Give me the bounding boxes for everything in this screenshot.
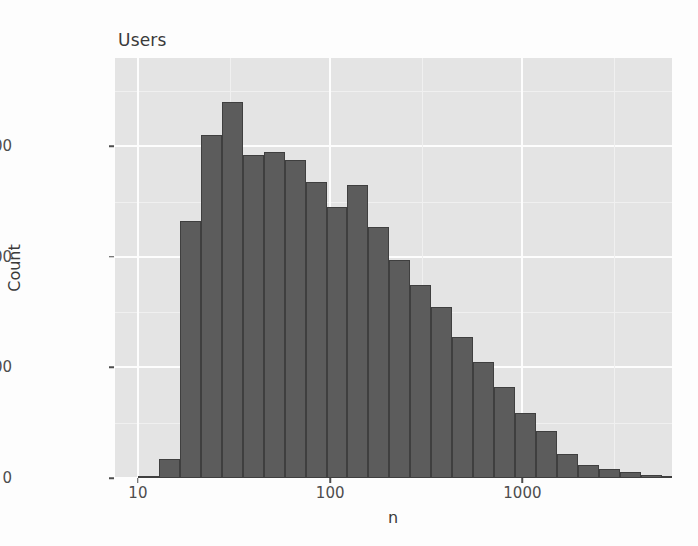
- histogram-bar: [264, 152, 285, 478]
- histogram-bar: [578, 465, 599, 478]
- y-tick-label: 0: [2, 469, 12, 487]
- histogram-bar: [494, 387, 515, 478]
- histogram-bar: [620, 472, 641, 478]
- x-tick-mark: [522, 478, 524, 483]
- y-axis-label: Count: [5, 244, 24, 292]
- histogram-bar: [347, 185, 368, 478]
- histogram-bar: [201, 135, 222, 478]
- histogram-bars: [115, 58, 672, 478]
- histogram-bar: [285, 160, 306, 478]
- histogram-bar: [599, 469, 620, 478]
- x-tick-label: 1000: [503, 484, 541, 502]
- histogram-bar: [243, 155, 264, 478]
- histogram-bar: [431, 307, 452, 478]
- x-tick-mark: [329, 478, 331, 483]
- plot-panel: [115, 58, 672, 478]
- histogram-figure: Users 0200040006000 101001000 Count n: [0, 0, 698, 546]
- histogram-bar: [306, 182, 327, 478]
- x-tick-label: 10: [128, 484, 147, 502]
- histogram-bar: [159, 459, 180, 478]
- histogram-bar: [662, 476, 672, 478]
- histogram-bar: [180, 221, 201, 478]
- histogram-bar: [138, 476, 159, 478]
- y-tick-label: 2000: [0, 358, 12, 376]
- x-tick-mark: [137, 478, 139, 483]
- histogram-bar: [641, 475, 662, 478]
- histogram-bar: [557, 454, 578, 478]
- x-tick-label: 100: [316, 484, 345, 502]
- x-axis-label: n: [388, 508, 398, 527]
- histogram-bar: [452, 337, 473, 478]
- histogram-bar: [368, 227, 389, 478]
- histogram-bar: [222, 102, 243, 478]
- histogram-bar: [473, 362, 494, 478]
- histogram-bar: [410, 285, 431, 478]
- y-tick-label: 6000: [0, 137, 12, 155]
- histogram-bar: [389, 260, 410, 478]
- histogram-bar: [327, 207, 348, 478]
- y-tick-mark: [109, 256, 114, 258]
- y-tick-mark: [109, 146, 114, 148]
- histogram-bar: [515, 413, 536, 478]
- y-tick-mark: [109, 367, 114, 369]
- y-tick-mark: [109, 477, 114, 479]
- plot-title: Users: [118, 30, 167, 50]
- histogram-bar: [536, 431, 557, 478]
